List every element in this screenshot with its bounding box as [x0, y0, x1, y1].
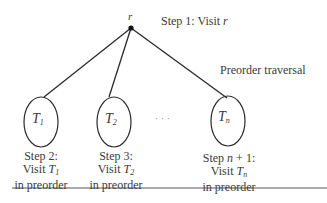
step-1-var: r [223, 14, 228, 28]
subtree-t1-label: T1 [32, 112, 44, 129]
root-node [128, 25, 133, 30]
step-2-line3: in preorder [10, 179, 72, 192]
edge-r-t2 [109, 28, 131, 97]
subtree-t2-label: T2 [105, 112, 117, 129]
edge-r-t1 [44, 28, 131, 97]
step-3-line2: Visit T2 [83, 163, 149, 179]
subtree-tn-label: Tn [218, 110, 230, 127]
step-3-line3: in preorder [83, 179, 149, 192]
root-label: r [128, 10, 132, 23]
step-3-caption: Step 3: Visit T2 in preorder [83, 150, 149, 192]
step-1-text: Step 1: Visit [161, 14, 223, 28]
edge-r-tn [131, 28, 227, 98]
step-n1-line2: Visit Tn [196, 165, 262, 181]
step-n1-line3: in preorder [196, 181, 262, 194]
step-n1-caption: Step n + 1: Visit Tn in preorder [196, 152, 262, 194]
step-1-label: Step 1: Visit r [161, 15, 228, 28]
ellipsis: · · · [155, 112, 170, 125]
step-2-line2: Visit T1 [10, 163, 72, 179]
diagram-title: Preorder traversal [220, 64, 306, 77]
step-2-caption: Step 2: Visit T1 in preorder [10, 150, 72, 192]
